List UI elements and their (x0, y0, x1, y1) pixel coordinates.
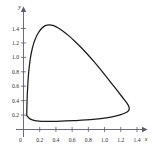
phase-portrait-figure: y x 0 0.20.40.60.81.01.21.4 0.20.40.60.8… (0, 0, 152, 147)
x-tick-label: 1.2 (117, 137, 124, 143)
x-tick-label: 0.6 (69, 137, 76, 143)
y-tick-label: 1.0 (12, 54, 19, 60)
plot-canvas: y x 0 0.20.40.60.81.01.21.4 0.20.40.60.8… (0, 0, 152, 147)
x-tick-label: 0.4 (52, 137, 59, 143)
x-tick-label: 1.0 (101, 137, 108, 143)
y-tick-label: 1.2 (12, 40, 19, 46)
y-axis-label: y (17, 3, 21, 10)
y-axis-arrow-icon (21, 7, 26, 13)
x-tick-label: 0.8 (85, 137, 92, 143)
y-tick-label: 0.4 (12, 98, 19, 104)
x-axis-label: x (144, 135, 148, 142)
x-axis-arrow-icon (142, 127, 148, 132)
y-axis-ticks: 0.20.40.60.81.01.21.4 (12, 26, 26, 119)
y-tick-label: 0.2 (12, 112, 19, 118)
y-tick-label: 1.4 (12, 26, 19, 32)
orbit-curve (27, 25, 129, 122)
origin-label: 0 (19, 137, 22, 143)
x-tick-label: 0.2 (36, 137, 43, 143)
y-tick-label: 0.6 (12, 83, 19, 89)
y-tick-label: 0.8 (12, 69, 19, 75)
x-tick-label: 1.4 (134, 137, 141, 143)
